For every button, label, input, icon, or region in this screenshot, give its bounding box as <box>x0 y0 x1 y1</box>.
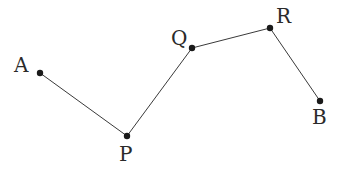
label-p: P <box>119 142 132 166</box>
point-q <box>189 45 195 51</box>
points: APQRB <box>13 4 327 166</box>
segment-q-r <box>192 28 270 48</box>
label-b: B <box>312 105 327 129</box>
point-a <box>37 70 43 76</box>
label-q: Q <box>171 26 187 50</box>
path-diagram: APQRB <box>0 0 343 174</box>
label-a: A <box>13 53 29 77</box>
segment-a-p <box>40 73 127 136</box>
point-b <box>317 98 323 104</box>
point-p <box>124 133 130 139</box>
point-r <box>267 25 273 31</box>
segment-p-q <box>127 48 192 136</box>
segment-r-b <box>270 28 320 101</box>
label-r: R <box>276 4 292 28</box>
